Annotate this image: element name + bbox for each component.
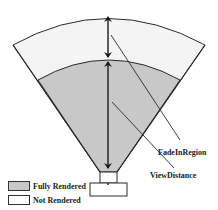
not-rendered-swatch	[8, 195, 30, 205]
camera-origin-dot	[107, 183, 109, 185]
view-distance-label: ViewDistance	[150, 171, 197, 180]
fully-rendered-swatch	[8, 181, 30, 191]
legend-label: Not Rendered	[33, 196, 81, 205]
camera-body	[90, 183, 127, 196]
fade-in-region-label: FadeInRegion	[158, 148, 207, 157]
camera-lens	[100, 172, 117, 183]
legend-label: Fully Rendered	[33, 182, 86, 191]
view-frustum-diagram: FadeInRegion ViewDistance	[0, 0, 218, 210]
legend-item-fully-rendered: Fully Rendered	[8, 181, 86, 191]
legend-item-not-rendered: Not Rendered	[8, 195, 81, 205]
